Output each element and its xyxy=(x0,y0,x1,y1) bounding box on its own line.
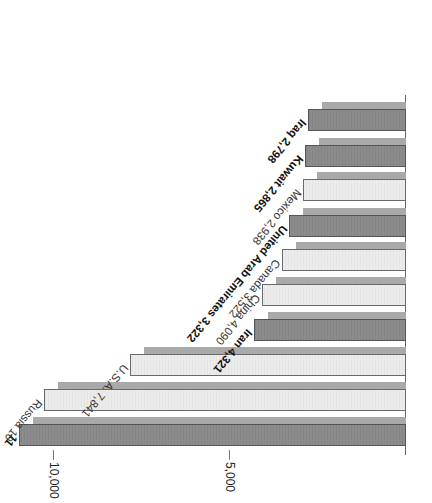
bar-united-arab-emirates xyxy=(289,215,406,237)
tick-mark xyxy=(53,450,54,460)
bar-u-s-a- xyxy=(130,354,406,376)
bar-shadow xyxy=(268,312,406,319)
bar-shadow xyxy=(276,277,406,284)
bar-saudi-arabia xyxy=(19,424,406,446)
x-tick-label: 10,000 xyxy=(47,462,61,499)
x-tick-label: 5,000 xyxy=(223,462,237,492)
bar-shadow xyxy=(322,102,406,109)
rotated-bar-chart: 11Russia 10U.S.A. 7,841Iran 4,321China 4… xyxy=(0,0,432,503)
bar-shadow xyxy=(303,208,406,215)
bar-mexico xyxy=(303,179,406,201)
bar-iran xyxy=(254,319,406,341)
tick-mark xyxy=(229,450,230,460)
bar-shadow xyxy=(317,172,406,179)
bar-shadow xyxy=(319,138,406,145)
bar-iraq xyxy=(308,109,406,131)
bar-shadow xyxy=(296,242,406,249)
bar-china xyxy=(262,284,406,306)
bar-canada xyxy=(282,249,406,271)
bar-kuwait xyxy=(305,145,406,167)
bar-shadow xyxy=(144,347,406,354)
